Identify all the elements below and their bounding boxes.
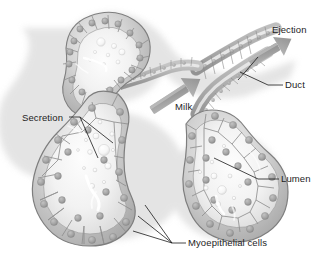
label-duct: Duct bbox=[285, 79, 305, 90]
myo-leader-c bbox=[133, 231, 172, 243]
label-ejection: Ejection bbox=[272, 24, 307, 35]
label-myoepithelial-cells: Myoepithelial cells bbox=[188, 237, 267, 248]
label-secretion: Secretion bbox=[22, 112, 63, 123]
mammary-alveolus-diagram: Ejection Duct Milk Lumen Secretion Myoep… bbox=[0, 0, 331, 265]
label-milk: Milk bbox=[175, 101, 192, 112]
right-alveolus bbox=[183, 110, 288, 242]
diagram-canvas: Ejection Duct Milk Lumen Secretion Myoep… bbox=[0, 0, 331, 265]
label-lumen: Lumen bbox=[281, 173, 311, 184]
